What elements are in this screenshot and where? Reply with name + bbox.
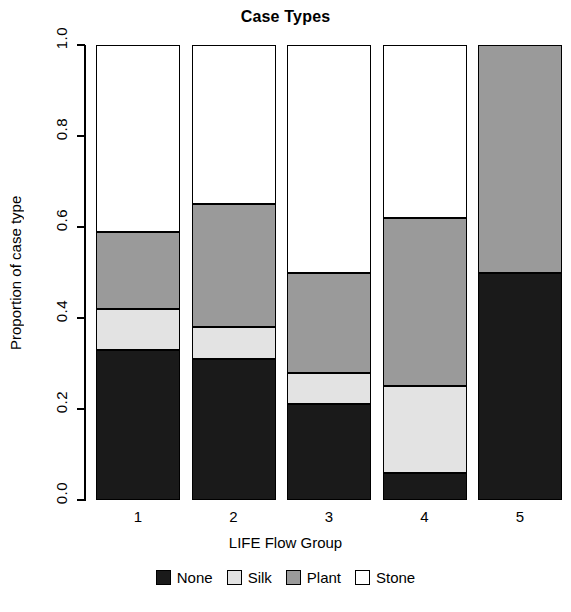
bar-segment-stone[interactable] [96,45,180,232]
bar-segment-none[interactable] [287,404,371,500]
y-axis-tick-label: 1.0 [53,27,70,49]
x-axis-tick-label: 2 [192,508,276,525]
y-axis-tick-label: 0.6 [53,209,70,231]
bar-group-3[interactable] [287,45,371,500]
x-axis-tick-label: 5 [478,508,562,525]
legend-label: None [177,570,213,585]
legend-swatch-stone [355,570,370,585]
bar-segment-plant[interactable] [383,218,467,386]
y-axis-tick [77,135,85,137]
x-axis-tick-label: 3 [287,508,371,525]
bar-segment-silk[interactable] [96,309,180,350]
legend-label: Stone [376,570,415,585]
bar-group-2[interactable] [192,45,276,500]
y-axis-line [84,45,86,501]
bar-segment-silk[interactable] [287,373,371,405]
bar-segment-plant[interactable] [96,232,180,309]
bar-segment-plant[interactable] [478,45,562,273]
bar-group-5[interactable] [478,45,562,500]
y-axis-tick-label: 0.0 [53,482,70,504]
chart-figure: Case Types Proportion of case type 0.00.… [0,0,571,612]
bar-segment-stone[interactable] [383,45,467,218]
chart-legend: NoneSilkPlantStone [0,570,571,585]
bar-segment-stone[interactable] [287,45,371,273]
bar-segment-none[interactable] [192,359,276,500]
y-axis-title: Proportion of case type [4,45,26,500]
legend-label: Silk [248,570,272,585]
bar-group-1[interactable] [96,45,180,500]
bar-segment-stone[interactable] [192,45,276,204]
legend-swatch-plant [286,570,301,585]
x-axis-tick-label: 1 [96,508,180,525]
y-axis-tick [77,408,85,410]
legend-swatch-none [156,570,171,585]
legend-swatch-silk [227,570,242,585]
legend-label: Plant [307,570,341,585]
bar-segment-plant[interactable] [192,204,276,327]
y-axis-tick [77,317,85,319]
legend-item-silk[interactable]: Silk [227,570,272,585]
legend-item-none[interactable]: None [156,570,213,585]
bar-segment-silk[interactable] [192,327,276,359]
y-axis-tick-label: 0.4 [53,300,70,322]
plot-area [96,45,562,500]
bar-segment-plant[interactable] [287,273,371,373]
y-axis-tick [77,226,85,228]
y-axis-tick-label: 0.8 [53,118,70,140]
y-axis-tick [77,499,85,501]
legend-item-stone[interactable]: Stone [355,570,415,585]
bar-segment-none[interactable] [96,350,180,500]
bar-segment-none[interactable] [478,273,562,501]
y-axis: Proportion of case type 0.00.20.40.60.81… [0,0,96,612]
x-axis-title: LIFE Flow Group [0,534,571,551]
bar-segment-silk[interactable] [383,386,467,472]
y-axis-tick [77,44,85,46]
legend-item-plant[interactable]: Plant [286,570,341,585]
bar-group-4[interactable] [383,45,467,500]
bar-segment-none[interactable] [383,473,467,500]
y-axis-tick-label: 0.2 [53,391,70,413]
x-axis-tick-label: 4 [383,508,467,525]
